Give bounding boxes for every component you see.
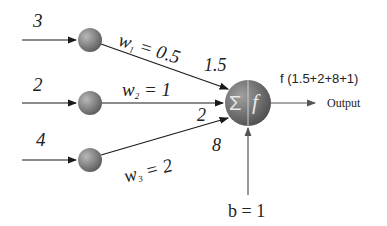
input-value-1: 3	[33, 11, 43, 30]
weight-label-2: w2 = 1	[122, 80, 171, 101]
input-node-2	[78, 91, 102, 115]
input-node-3	[78, 148, 102, 172]
sum-symbol: Σ	[229, 93, 241, 113]
output-label: Output	[327, 97, 360, 109]
product-2: 2	[197, 106, 206, 124]
activation-symbol: f	[252, 91, 258, 113]
input-value-2: 2	[33, 75, 43, 94]
product-1: 1.5	[204, 56, 227, 74]
diagram-graphics	[0, 0, 387, 226]
output-formula: f (1.5+2+8+1)	[280, 72, 358, 85]
input-value-3: 4	[36, 130, 46, 149]
perceptron-diagram: Σ f 3 2 4 w1 = 0.5 w2 = 1 w3 = 2 1.5 2 8…	[0, 0, 387, 226]
input-node-1	[78, 28, 102, 52]
product-3: 8	[212, 136, 221, 154]
bias-label: b = 1	[228, 202, 265, 220]
weight-edge-3	[101, 118, 228, 155]
